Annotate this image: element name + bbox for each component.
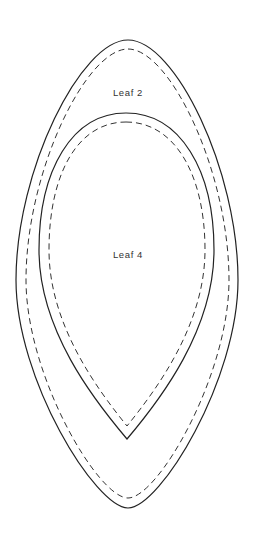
leaf-4-cut-line <box>39 113 214 439</box>
leaf-2-cut-line <box>16 40 238 508</box>
leaf-2-seam-line <box>26 49 229 498</box>
leaf-pattern-diagram: Leaf 2 Leaf 4 <box>0 0 257 543</box>
leaf-2-label: Leaf 2 <box>113 87 143 98</box>
leaf-4-seam-line <box>49 122 205 426</box>
leaf-4-label: Leaf 4 <box>113 249 143 260</box>
